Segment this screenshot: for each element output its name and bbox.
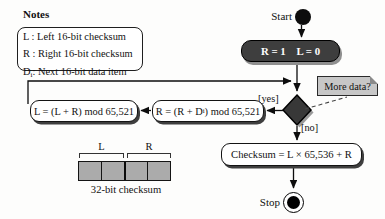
checksum-left-half-label: L (79, 141, 124, 152)
stop-node-inner-dot (287, 196, 300, 209)
more-data-note-label: More data? (324, 81, 371, 92)
update-l-box: L = (L + R) mod 65,521 (30, 100, 138, 122)
guard-no-label: [no] (301, 122, 318, 133)
notes-title: Notes (23, 8, 49, 20)
update-r-box: R = (R + Di) mod 65,521 (152, 100, 264, 122)
notes-legend-box: L : Left 16-bit checksum R : Right 16-bi… (17, 27, 143, 71)
flowchart-canvas: Notes L : Left 16-bit checksum R : Right… (0, 0, 385, 219)
stop-node-icon (283, 192, 304, 213)
final-checksum-box: Checksum = L × 65,536 + R (221, 143, 362, 166)
right-bracket (127, 153, 171, 158)
note-link-dashed-line (305, 97, 347, 109)
start-label: Start (261, 10, 292, 22)
more-data-note: More data? (317, 76, 378, 96)
decision-diamond (283, 95, 311, 125)
start-node-icon (295, 9, 311, 25)
byte-cell (126, 162, 149, 180)
byte-cell (148, 162, 170, 180)
left-bracket (79, 153, 124, 158)
byte-cell (79, 162, 102, 180)
checksum-byte-cells (78, 161, 171, 181)
legend-item-data-item: Di: Next 16-bit data item (23, 65, 142, 82)
legend-item-left-checksum: L : Left 16-bit checksum (23, 30, 142, 47)
legend-item-right-checksum: R : Right 16-bit checksum (23, 47, 142, 64)
note-dog-ear-icon (370, 76, 378, 84)
checksum-caption: 32-bit checksum (70, 184, 182, 195)
checksum-right-half-label: R (127, 141, 171, 152)
byte-cell (102, 162, 126, 180)
init-box: R = 1 L = 0 (241, 40, 340, 62)
stop-label: Stop (252, 196, 280, 208)
